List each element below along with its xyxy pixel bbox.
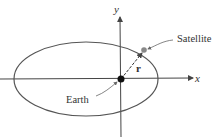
earth-leader-line: [96, 82, 117, 96]
x-axis: [0, 78, 193, 79]
earth-dot: [118, 76, 125, 83]
y-axis-label: y: [113, 3, 119, 15]
position-vector-label: r: [136, 62, 141, 74]
satellite-label: Satellite: [177, 33, 212, 44]
satellite-leader-line: [148, 40, 173, 49]
satellite-dot: [141, 47, 147, 53]
earth-label: Earth: [66, 94, 89, 105]
x-axis-label: x: [194, 72, 200, 84]
orbit-diagram: x y r Satellite Earth: [0, 0, 220, 137]
